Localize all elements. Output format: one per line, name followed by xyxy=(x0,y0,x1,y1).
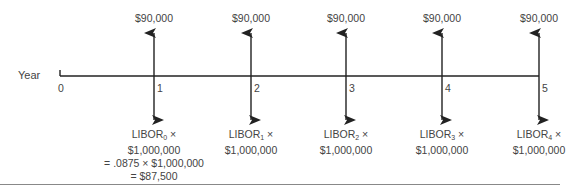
outflow-label-2: LIBOR1 × $1,000,000 xyxy=(225,128,278,157)
outflow-label-4: LIBOR3 × $1,000,000 xyxy=(416,128,469,157)
timeline-graphic xyxy=(0,0,578,193)
inflow-amount: $90,000 xyxy=(135,12,173,24)
tick-label: 5 xyxy=(542,82,548,94)
tick-label: 1 xyxy=(157,82,163,94)
bottom-rule xyxy=(0,184,560,185)
outflow-label-5: LIBOR4 × $1,000,000 xyxy=(513,128,566,157)
tick-label: 0 xyxy=(58,82,64,94)
tick-label: 4 xyxy=(445,82,451,94)
inflow-amount: $90,000 xyxy=(423,12,461,24)
tick-label: 2 xyxy=(254,82,260,94)
inflow-amount: $90,000 xyxy=(520,12,558,24)
inflow-amount: $90,000 xyxy=(327,12,365,24)
tick-label: 3 xyxy=(349,82,355,94)
outflow-label-1: LIBOR0 × $1,000,000 = .0875 × $1,000,000… xyxy=(104,128,204,183)
outflow-label-3: LIBOR2 × $1,000,000 xyxy=(320,128,373,157)
axis-label: Year xyxy=(18,69,40,81)
inflow-amount: $90,000 xyxy=(232,12,270,24)
cash-flow-timeline-diagram: Year 0 1 2 3 4 5 $90,000 $90,000 $90,000… xyxy=(0,0,578,193)
